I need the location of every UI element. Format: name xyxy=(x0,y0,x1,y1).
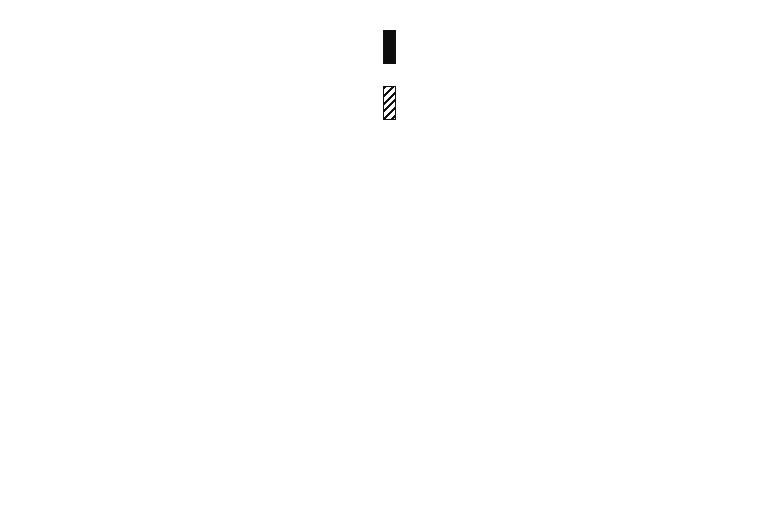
legend-item-some-effect xyxy=(383,86,414,120)
legend-swatch-solid-icon xyxy=(383,30,396,64)
legend-item-an-effect xyxy=(383,30,414,64)
chart-legend xyxy=(383,30,753,120)
legend-swatch-hatched-icon xyxy=(383,86,396,120)
bar-chart xyxy=(0,0,777,508)
